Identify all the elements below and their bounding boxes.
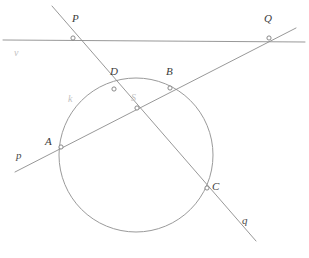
- label-point-D: D: [109, 65, 118, 77]
- point-D: [112, 87, 116, 91]
- line-p: [15, 28, 296, 172]
- point-S: [135, 106, 139, 110]
- circle-k: [59, 78, 213, 232]
- point-A: [59, 145, 63, 149]
- line-v: [3, 40, 305, 42]
- geometry-canvas: P Q D B S A C v p q k: [0, 0, 309, 258]
- point-C: [205, 186, 209, 190]
- point-P: [71, 36, 75, 40]
- label-point-Q: Q: [264, 12, 272, 24]
- label-point-A: A: [44, 135, 52, 147]
- label-circle-k: k: [68, 93, 73, 104]
- geometry-diagram: P Q D B S A C v p q k: [0, 0, 309, 258]
- label-line-v: v: [14, 47, 19, 58]
- point-Q: [267, 36, 271, 40]
- label-point-P: P: [71, 12, 79, 24]
- label-point-S: S: [131, 92, 136, 103]
- label-line-q: q: [242, 214, 248, 226]
- label-point-B: B: [166, 65, 173, 77]
- point-B: [168, 86, 172, 90]
- label-line-p: p: [15, 149, 22, 161]
- label-point-C: C: [212, 180, 220, 192]
